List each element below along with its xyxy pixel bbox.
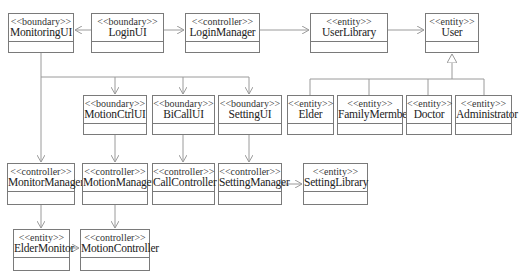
class-name: FamilyMermber — [338, 109, 402, 120]
class-callcontroller[interactable]: <<controller>>CallController — [152, 163, 215, 205]
class-monitormanager[interactable]: <<controller>>MonitorManager — [7, 163, 75, 205]
class-attributes-compartment — [92, 41, 163, 52]
class-name: SettingUI — [219, 109, 281, 120]
class-eldermonitor[interactable]: <<entity>>ElderMonitor — [13, 229, 70, 271]
class-attributes-compartment — [338, 123, 402, 134]
class-attributes-compartment — [219, 191, 281, 204]
class-attributes-compartment — [8, 191, 74, 204]
class-attributes-compartment — [456, 123, 511, 134]
class-monitoringui[interactable]: <<boundary>>MonitoringUI — [8, 13, 74, 53]
class-name: MotionController — [81, 243, 149, 254]
class-name: LoginManager — [186, 27, 259, 38]
class-name: MotionManager — [83, 177, 147, 188]
class-name: LoginUI — [92, 27, 163, 38]
class-doctor[interactable]: <<entity>>Doctor — [406, 95, 452, 135]
class-attributes-compartment — [407, 123, 451, 134]
class-name: Doctor — [407, 109, 451, 120]
class-name: BiCallUI — [153, 109, 214, 120]
class-attributes-compartment — [426, 41, 478, 52]
class-name: Administrator — [456, 109, 511, 120]
class-settinglibrary[interactable]: <<entity>>SettingLibrary — [303, 163, 368, 205]
class-settingui[interactable]: <<boundary>>SettingUI — [218, 95, 282, 135]
class-attributes-compartment — [219, 123, 281, 134]
class-motionctrlui[interactable]: <<boundary>>MotionCtrlUI — [83, 95, 147, 135]
class-attributes-compartment — [288, 123, 333, 134]
class-loginmanager[interactable]: <<controller>>LoginManager — [185, 13, 260, 53]
class-name: SettingLibrary — [304, 177, 367, 188]
class-attributes-compartment — [153, 191, 214, 204]
class-name: CallController — [153, 177, 214, 188]
class-attributes-compartment — [84, 123, 146, 134]
class-administrator[interactable]: <<entity>>Administrator — [455, 95, 512, 135]
class-name: Elder — [288, 109, 333, 120]
class-motioncontroller[interactable]: <<controller>>MotionController — [80, 229, 150, 271]
class-name: ElderMonitor — [14, 243, 69, 254]
class-attributes-compartment — [311, 41, 387, 52]
class-settingmanager[interactable]: <<controller>>SettingManager — [218, 163, 282, 205]
class-attributes-compartment — [9, 41, 73, 52]
class-motionmanager[interactable]: <<controller>>MotionManager — [82, 163, 148, 205]
class-attributes-compartment — [186, 41, 259, 52]
class-elder[interactable]: <<entity>>Elder — [287, 95, 334, 135]
class-attributes-compartment — [304, 191, 367, 204]
class-name: UserLibrary — [311, 27, 387, 38]
class-user[interactable]: <<entity>>User — [425, 13, 479, 53]
class-name: MonitoringUI — [9, 27, 73, 38]
class-name: MotionCtrlUI — [84, 109, 146, 120]
class-userlibrary[interactable]: <<entity>>UserLibrary — [310, 13, 388, 53]
class-name: SettingManager — [219, 177, 281, 188]
class-name: MonitorManager — [8, 177, 74, 188]
class-familymermber[interactable]: <<entity>>FamilyMermber — [337, 95, 403, 135]
uml-class-diagram: <<boundary>>MonitoringUI <<boundary>>Log… — [0, 0, 520, 280]
class-loginui[interactable]: <<boundary>>LoginUI — [91, 13, 164, 53]
class-attributes-compartment — [81, 257, 149, 270]
class-name: User — [426, 27, 478, 38]
class-attributes-compartment — [153, 123, 214, 134]
class-attributes-compartment — [14, 257, 69, 270]
class-bicallui[interactable]: <<boundary>>BiCallUI — [152, 95, 215, 135]
class-attributes-compartment — [83, 191, 147, 204]
